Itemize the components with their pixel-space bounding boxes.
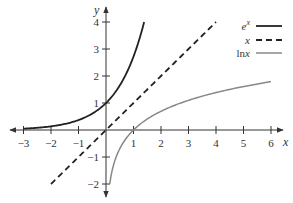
legend: exxlnx (237, 18, 282, 59)
function-plot: −3−2−1123456−2−11234 exxlnx x y (0, 0, 293, 203)
legend-label: lnx (237, 47, 251, 59)
x-tick-label: −3 (18, 137, 30, 149)
y-axis-title: y (93, 3, 100, 17)
x-tick-label: −1 (73, 137, 85, 149)
x-tick-label: 3 (186, 137, 192, 149)
plot-series (24, 22, 272, 184)
y-tick-label: 2 (94, 70, 100, 82)
x-tick-label: 4 (213, 137, 219, 149)
x-axis-title: x (282, 135, 289, 149)
x-tick-label: 2 (158, 137, 164, 149)
y-tick-label: 1 (94, 97, 100, 109)
legend-label: ex (242, 18, 251, 32)
y-tick-label: 4 (94, 16, 100, 28)
x-tick-label: −2 (45, 137, 57, 149)
axes (10, 7, 283, 197)
series-identity-curve (51, 22, 216, 184)
y-tick-label: −2 (87, 178, 99, 190)
legend-label: x (244, 34, 250, 46)
x-tick-label: 1 (131, 137, 137, 149)
y-tick-label: −1 (87, 151, 99, 163)
series-exp-curve (24, 22, 145, 129)
x-tick-label: 5 (241, 137, 247, 149)
tick-marks: −3−2−1123456−2−11234 (18, 16, 275, 190)
y-tick-label: 3 (94, 43, 100, 55)
x-tick-label: 6 (268, 137, 274, 149)
